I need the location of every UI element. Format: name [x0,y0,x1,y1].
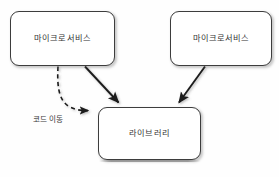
edge-label-code-move: 코드 이동 [16,116,80,124]
diagram-canvas: 마이크로서비스 마이크로서비스 라이브러리 코드 이동 [0,0,279,177]
edge-right-to-library [179,67,205,103]
library-bottom-shadow [99,160,200,162]
node-microservice-right[interactable]: 마이크로서비스 [170,11,272,66]
node-library-label: 라이브러리 [129,129,170,137]
node-microservice-left-label: 마이크로서비스 [34,34,91,42]
edge-left-to-library [85,67,119,103]
node-library[interactable]: 라이브러리 [98,107,201,160]
node-microservice-right-label: 마이크로서비스 [193,34,250,42]
edge-code-move [58,67,88,111]
node-microservice-left[interactable]: 마이크로서비스 [10,11,115,66]
